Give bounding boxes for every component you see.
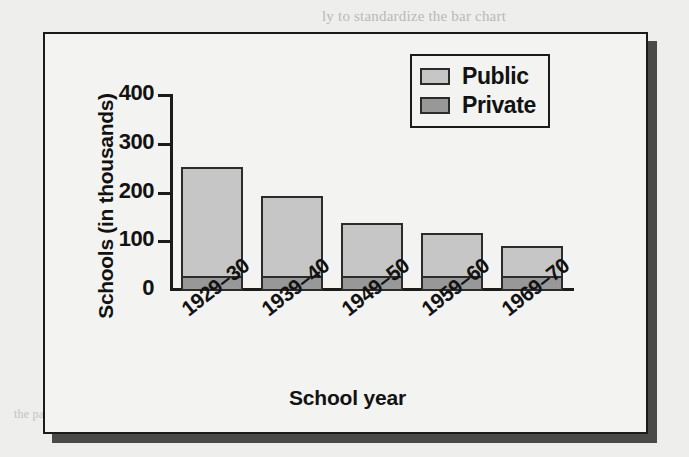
- legend-item-public[interactable]: Public: [420, 62, 536, 91]
- y-tick-label-400: 400: [84, 80, 154, 106]
- plot-area: Schools (in thousands) 400 300 200 100 0…: [45, 34, 650, 436]
- chart-figure-frame: Schools (in thousands) 400 300 200 100 0…: [43, 32, 648, 434]
- y-tick-300: [158, 143, 171, 146]
- legend-swatch-private: [420, 97, 450, 114]
- y-tick-400: [158, 94, 171, 97]
- y-tick-label-200: 200: [84, 178, 154, 204]
- legend-label-public: Public: [462, 63, 529, 90]
- y-tick-label-300: 300: [84, 129, 154, 155]
- legend-item-private[interactable]: Private: [420, 91, 536, 120]
- legend-swatch-public: [420, 68, 450, 85]
- chart-legend: Public Private: [410, 54, 550, 128]
- background-page-text-top: ly to standardize the bar chart: [322, 6, 506, 27]
- x-axis-title: School year: [45, 386, 650, 410]
- y-tick-200: [158, 192, 171, 195]
- y-tick-100: [158, 240, 171, 243]
- y-tick-label-0: 0: [84, 275, 154, 301]
- y-tick-label-100: 100: [84, 226, 154, 252]
- legend-label-private: Private: [462, 92, 536, 119]
